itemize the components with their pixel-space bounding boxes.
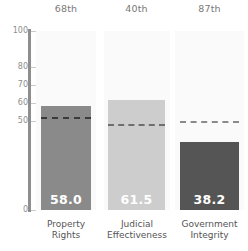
category-label-judicial-effectiveness: Judicial Effectiveness [102, 219, 172, 241]
reference-line-property-rights [41, 117, 91, 119]
y-tick-mark-50 [31, 121, 36, 122]
reference-line-government-integrity [180, 121, 239, 123]
rule-of-law-bar-chart: 68th 40th 87th 100807060500 58.0 61.5 38… [0, 0, 248, 251]
bar-government-integrity: 38.2 [180, 142, 239, 210]
bar-value-government-integrity: 38.2 [180, 192, 239, 207]
plot-area: 100807060500 58.0 61.5 38.2 [0, 0, 248, 215]
y-tick-mark-100 [31, 31, 36, 32]
y-tick-label-50: 50 [0, 117, 28, 125]
y-tick-label-80: 80 [0, 63, 28, 71]
bar-value-property-rights: 58.0 [41, 192, 91, 207]
y-tick-label-100: 100 [0, 27, 28, 35]
y-tick-label-60: 60 [0, 99, 28, 107]
y-tick-mark-70 [31, 85, 36, 86]
y-tick-mark-0 [31, 210, 36, 211]
reference-line-judicial-effectiveness [108, 124, 165, 126]
y-tick-label-70: 70 [0, 81, 28, 89]
bar-property-rights: 58.0 [41, 106, 91, 210]
y-tick-mark-80 [31, 67, 36, 68]
bar-value-judicial-effectiveness: 61.5 [108, 192, 165, 207]
category-label-property-rights: Property Rights [34, 219, 98, 241]
y-tick-label-0: 0 [0, 206, 28, 214]
category-label-row: Property Rights Judicial Effectiveness G… [0, 216, 248, 251]
bar-judicial-effectiveness: 61.5 [108, 100, 165, 210]
category-label-government-integrity: Government Integrity [173, 219, 246, 241]
y-tick-mark-60 [31, 103, 36, 104]
